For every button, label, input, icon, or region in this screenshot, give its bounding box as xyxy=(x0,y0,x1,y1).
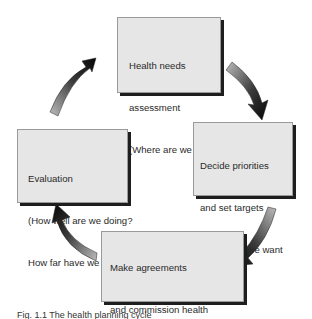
node-text-line: Decide priorities xyxy=(200,159,283,173)
node-text-line: (How well are we doing? xyxy=(28,214,133,228)
node-text-line: Make agreements xyxy=(110,261,220,275)
arrow-top-to-right-icon xyxy=(226,62,268,120)
node-make-agreements: Make agreements and commission health se… xyxy=(101,231,244,302)
node-text-line: and set targets xyxy=(200,201,283,215)
node-text-line: Evaluation xyxy=(28,172,133,186)
node-text-line: assessment xyxy=(129,101,221,115)
node-text-line: Health needs xyxy=(129,59,221,73)
node-evaluation: Evaluation (How well are we doing? How f… xyxy=(17,129,128,203)
arrow-left-to-top-icon xyxy=(50,58,96,116)
node-decide-priorities: Decide priorities and set targets (Where… xyxy=(193,122,293,196)
figure-caption: Fig. 1.1 The health planning cycle xyxy=(17,310,151,319)
node-health-needs-assessment: Health needs assessment (Where are we no… xyxy=(117,17,221,93)
